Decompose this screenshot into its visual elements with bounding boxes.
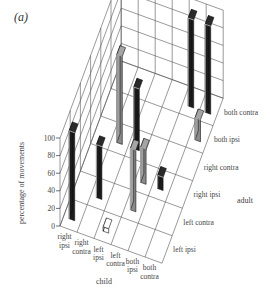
z-axis-title: percentage of movements [17,142,26,224]
adult-category-label: both contra [224,108,259,117]
child-category-label: bothipsi [126,257,140,275]
z-axis [56,138,60,226]
bar [96,136,105,200]
z-tick-label: 40 [48,186,56,195]
adult-category-label: left ipsi [173,245,196,254]
bar [103,218,112,233]
z-tick-label: 20 [48,204,56,213]
bar-chart-3d: 020406080100percentage of movementsright… [0,0,270,296]
bars [69,9,214,233]
child-category-label: leftcontra [106,251,125,269]
bar-top-face [103,218,112,229]
bar-side-face [205,15,208,112]
bar-side-face [69,122,72,219]
bar [195,109,204,142]
z-tick-label: 100 [44,134,56,143]
child-category-label: bothcontra [140,263,159,281]
adult-category-label: left contra [183,218,214,227]
adult-category-label: right ipsi [194,190,221,199]
bar-side-face [134,78,137,148]
adult-category-label: both ipsi [214,135,240,144]
z-tick-label: 80 [48,151,56,160]
bar [158,167,167,191]
adult-category-label: right contra [204,163,239,172]
chart-stage: (a) 020406080100percentage of movementsr… [0,0,270,296]
adult-axis-title: adult [237,196,254,205]
child-category-label: rightipsi [57,232,72,250]
bar [205,15,214,114]
child-category-label: leftipsi [93,245,104,263]
bar [117,46,126,145]
child-axis-title: child [96,277,112,286]
z-tick-label: 60 [48,169,56,178]
bar [188,9,197,108]
bar-side-face [117,46,120,143]
bar-side-face [188,9,191,106]
child-category-label: rightcontra [72,238,91,256]
bar-side-face [130,139,133,209]
z-tick-label: 0 [51,222,55,231]
bar [69,122,78,221]
